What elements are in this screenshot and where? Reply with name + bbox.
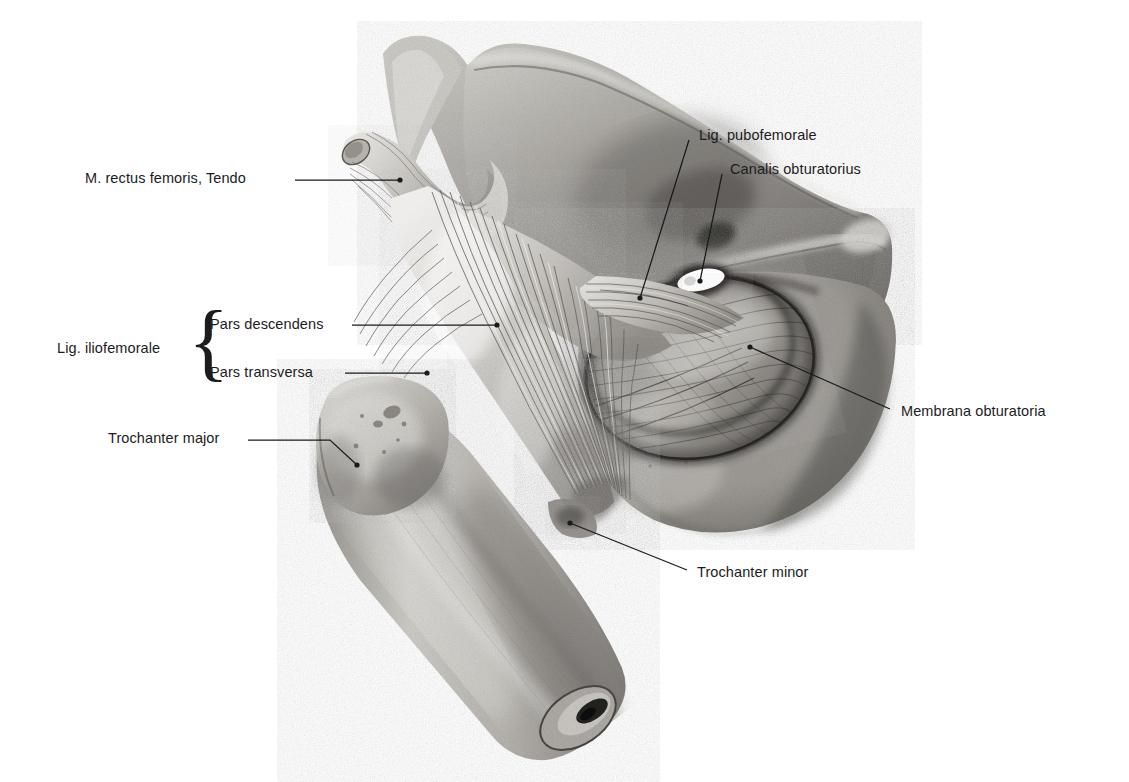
anatomical-illustration xyxy=(0,0,1129,782)
group-brace: { xyxy=(188,298,229,384)
label-lig-pubofemorale: Lig. pubofemorale xyxy=(699,127,817,143)
label-rectus-femoris-tendo: M. rectus femoris, Tendo xyxy=(85,170,246,186)
label-trochanter-major: Trochanter major xyxy=(108,430,219,446)
label-canalis-obturatorius: Canalis obturatorius xyxy=(730,161,861,177)
anatomy-figure: M. rectus femoris, Tendo Lig. iliofemora… xyxy=(0,0,1129,782)
label-trochanter-minor: Trochanter minor xyxy=(697,564,808,580)
label-lig-iliofemorale: Lig. iliofemorale xyxy=(57,340,160,356)
label-membrana-obturatoria: Membrana obturatoria xyxy=(901,403,1046,419)
